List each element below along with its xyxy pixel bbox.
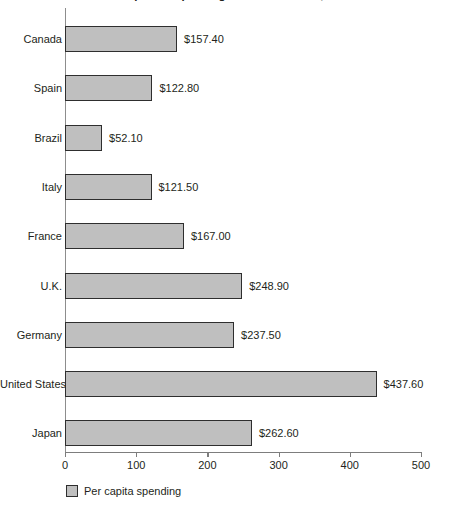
bar-rect (65, 223, 184, 249)
x-axis-tick (421, 452, 422, 457)
x-axis-tick-label: 400 (341, 459, 359, 471)
bar-category-label: Brazil (0, 132, 62, 144)
x-axis-tick (350, 452, 351, 457)
x-axis-tick-label: 300 (269, 459, 287, 471)
bar-category-label: Spain (0, 82, 62, 94)
bar-value-label: $52.10 (109, 132, 143, 144)
legend-swatch-per-capita-spending (66, 485, 78, 497)
x-axis-tick (65, 452, 66, 457)
x-axis-tick (279, 452, 280, 457)
bar-category-label: France (0, 230, 62, 242)
bar-rect (65, 273, 242, 299)
x-axis-tick-label: 100 (127, 459, 145, 471)
bar-value-label: $237.50 (241, 329, 281, 341)
bar-rect (65, 75, 152, 101)
bar-category-label: Germany (0, 329, 62, 341)
bar-category-label: United States (0, 378, 62, 390)
bar-rect (65, 174, 152, 200)
bar-rect (65, 26, 177, 52)
bar-value-label: $122.80 (159, 82, 199, 94)
bar-value-label: $262.60 (259, 427, 299, 439)
x-axis-tick (136, 452, 137, 457)
x-axis-line (65, 452, 422, 453)
chart-title: Per capita Ad spending around the world,… (0, 0, 452, 1)
bar-value-label: $121.50 (159, 181, 199, 193)
chart-legend: Per capita spending (66, 485, 181, 497)
bar-category-label: U.K. (0, 280, 62, 292)
bar-value-label: $157.40 (184, 33, 224, 45)
bar-rect (65, 125, 102, 151)
bar-value-label: $437.60 (384, 378, 424, 390)
bar-value-label: $248.90 (249, 280, 289, 292)
bar-category-label: Japan (0, 427, 62, 439)
bar-category-label: Italy (0, 181, 62, 193)
legend-label-per-capita-spending: Per capita spending (84, 485, 181, 497)
bar-category-label: Canada (0, 33, 62, 45)
x-axis-tick-label: 200 (198, 459, 216, 471)
x-axis-tick (207, 452, 208, 457)
bar-rect (65, 420, 252, 446)
bar-value-label: $167.00 (191, 230, 231, 242)
bar-rect (65, 371, 377, 397)
x-axis-tick-label: 0 (62, 459, 68, 471)
bar-rect (65, 322, 234, 348)
bar-chart: Per capita Ad spending around the world,… (0, 0, 452, 506)
x-axis-tick-label: 500 (412, 459, 430, 471)
